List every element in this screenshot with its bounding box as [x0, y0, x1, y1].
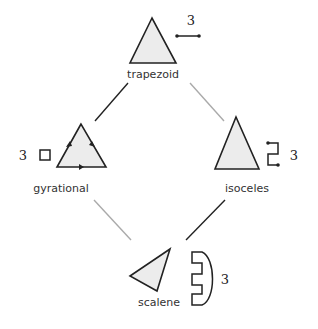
node-scalene: scalene 3: [130, 249, 229, 309]
node-count: 3: [187, 13, 195, 28]
square-icon: [40, 150, 50, 160]
node-label: gyrational: [33, 182, 89, 195]
edge-trapezoid-isoceles: [190, 83, 224, 121]
edge-gyrational-scalene: [94, 200, 131, 240]
node-isoceles: isoceles 3: [215, 117, 298, 195]
node-trapezoid: trapezoid 3: [127, 13, 201, 81]
node-count: 3: [221, 272, 229, 287]
node-label: trapezoid: [127, 68, 179, 81]
edge-trapezoid-gyrational: [95, 83, 128, 121]
node-gyrational: gyrational 3: [19, 124, 106, 195]
comb-icon: [192, 252, 213, 305]
diagram-svg: trapezoid 3 gyrational 3 isoceles 3: [0, 0, 318, 329]
node-count: 3: [19, 148, 27, 163]
edge-isoceles-scalene: [186, 200, 225, 240]
diagram-canvas: trapezoid 3 gyrational 3 isoceles 3: [0, 0, 318, 329]
triangle-shape: [130, 18, 176, 63]
segment-icon: [175, 34, 201, 38]
zigzag-icon: [266, 141, 280, 167]
triangle-shape: [215, 117, 259, 169]
triangle-shape: [57, 124, 106, 167]
node-label: scalene: [138, 296, 180, 309]
node-label: isoceles: [225, 182, 269, 195]
node-count: 3: [290, 148, 298, 163]
triangle-shape: [130, 249, 170, 291]
